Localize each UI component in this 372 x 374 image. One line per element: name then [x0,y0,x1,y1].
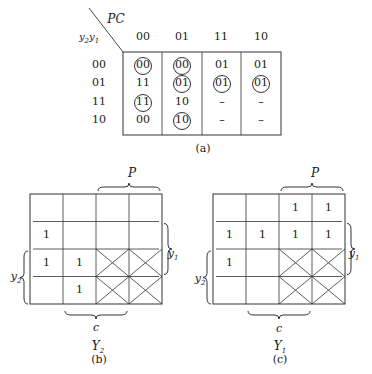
kmap-c-lines [0,0,372,374]
kmap-one-cell: 1 [213,229,246,241]
brace-label-y2: y2 [192,273,208,289]
kmap-one-cell: 1 [279,229,312,241]
brace-label-p: P [305,167,325,179]
caption-c: (c) [267,354,293,366]
kmap-one-cell: 1 [312,202,345,214]
kmap-one-cell: 1 [312,229,345,241]
kmap-one-cell: 1 [246,229,279,241]
brace-label-c: c [271,323,287,335]
kmap-one-cell: 1 [279,202,312,214]
kmap-one-cell: 1 [213,257,246,269]
brace-label-y1: y1 [346,248,362,264]
